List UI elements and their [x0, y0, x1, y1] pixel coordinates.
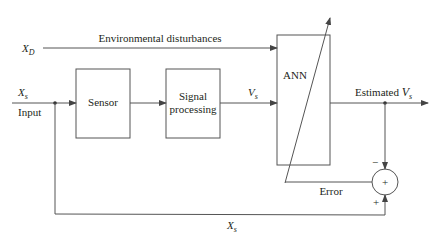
plus-sign: + [373, 196, 379, 208]
feedback-xs-label: Xs [226, 219, 237, 234]
summing-symbol: + [382, 176, 388, 188]
error-label: Error [319, 185, 343, 197]
xd-label: XD [21, 42, 35, 57]
signal-processing-line1: Signal [179, 90, 207, 102]
ann-label: ANN [283, 69, 307, 81]
disturbance-label: Environmental disturbances [98, 32, 221, 44]
ann-adaptation-arrow [285, 18, 330, 183]
ann-sensor-block-diagram: XD Environmental disturbances Xs Input S… [0, 0, 440, 243]
signal-processing-line2: processing [169, 103, 217, 115]
input-label: Input [18, 106, 41, 118]
sensor-label: Sensor [88, 96, 118, 108]
vs-label: Vs [248, 86, 258, 101]
minus-sign: − [372, 156, 378, 168]
xs-input-label: Xs [17, 86, 28, 101]
estimated-vs-label: Estimated Vs [355, 85, 412, 101]
ann-block [277, 35, 330, 165]
